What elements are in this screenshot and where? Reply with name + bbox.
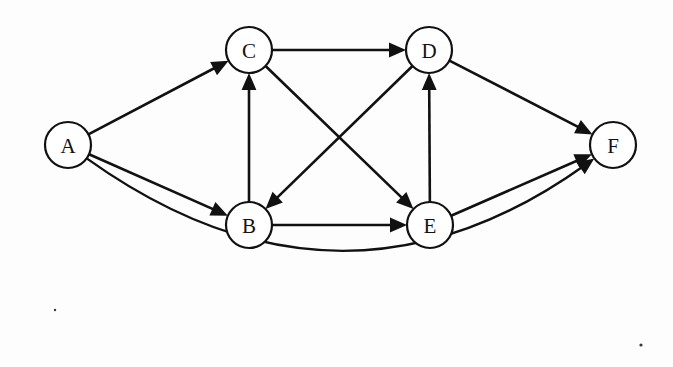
directed-graph-figure: ABCDEF [0,0,673,367]
edge-e-to-f [451,154,592,216]
edge-b-to-e [272,218,407,233]
graph-node-e[interactable]: E [407,202,453,248]
arrowhead [422,73,437,90]
node-circle[interactable] [407,202,453,248]
edge-d-to-f [449,61,592,135]
arrowhead [389,43,406,58]
graph-node-d[interactable]: D [406,27,452,73]
node-circle[interactable] [226,202,272,248]
scan-artifacts-layer [54,309,643,347]
edge-b-to-c [242,73,257,202]
arrowhead [242,73,257,90]
node-circle[interactable] [590,122,636,168]
graph-canvas: ABCDEF [0,0,673,367]
edge-path [89,154,217,211]
node-circle[interactable] [45,122,91,168]
arrowhead [390,218,407,233]
edge-c-to-d [272,43,406,58]
edge-e-to-d [422,73,437,202]
edge-path [429,85,430,202]
graph-node-b[interactable]: B [226,202,272,248]
edge-path [274,66,412,201]
edge-a-to-b [89,154,228,215]
scan-speck [54,309,56,311]
edge-path [449,61,581,129]
node-circle[interactable] [406,27,452,73]
scan-speck [639,343,642,346]
edge-path [87,158,585,250]
node-circle[interactable] [226,27,272,73]
edge-path [266,66,405,201]
edges-layer [87,43,595,251]
edge-a-to-f [87,158,595,250]
graph-node-c[interactable]: C [226,27,272,73]
graph-node-a[interactable]: A [45,122,91,168]
edge-path [88,66,218,134]
graph-node-f[interactable]: F [590,122,636,168]
edge-a-to-c [88,61,228,135]
